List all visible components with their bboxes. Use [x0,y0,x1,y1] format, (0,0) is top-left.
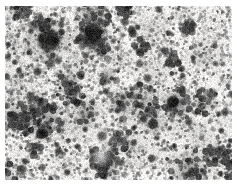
micrograph-image [5,6,232,180]
micrograph-frame [5,6,232,180]
micrograph-page: Grayscale micrograph showing dense dark … [0,0,237,187]
